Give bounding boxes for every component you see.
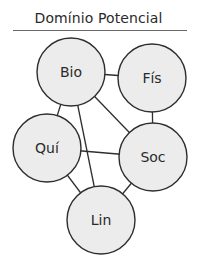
node-label: Bio: [60, 64, 82, 80]
node-soc: Soc: [119, 123, 187, 191]
node-label: Fís: [142, 70, 161, 86]
node-label: Lin: [91, 212, 112, 228]
node-label: Soc: [140, 149, 165, 165]
nodes-layer: BioFísQuíSocLin: [13, 38, 187, 254]
node-lin: Lin: [67, 186, 135, 254]
node-fis: Fís: [118, 44, 186, 112]
node-bio: Bio: [37, 38, 105, 106]
node-label: Quí: [35, 140, 60, 156]
node-qui: Quí: [13, 114, 81, 182]
network-graph: BioFísQuíSocLin: [0, 0, 197, 266]
